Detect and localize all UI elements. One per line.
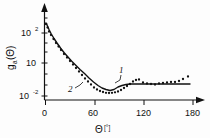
data-point (166, 81, 168, 83)
data-point (50, 34, 52, 36)
data-point (154, 83, 156, 85)
data-point (174, 81, 176, 83)
y-axis-title-group: g a (Θ) (5, 46, 18, 70)
x-axis-title-group: Θ [°] (95, 124, 110, 135)
data-point (142, 81, 144, 83)
data-point (132, 80, 134, 82)
data-point (178, 80, 180, 82)
data-point (146, 82, 148, 84)
data-point (129, 83, 131, 85)
data-point (102, 91, 104, 93)
data-point (48, 30, 50, 32)
y-tick-label-1e1: 10 (26, 58, 36, 68)
data-point (162, 82, 164, 84)
data-point (75, 67, 77, 69)
data-point (81, 74, 83, 76)
data-point (114, 91, 116, 93)
data-point (60, 49, 62, 51)
y-axis-title-argument: (Θ) (5, 46, 16, 60)
data-point (120, 89, 122, 91)
x-tick-label-180: 180 (185, 108, 200, 118)
y-tick-labels-group: 10 2 10 10 -2 (19, 26, 39, 101)
data-point (182, 78, 184, 80)
data-point (93, 86, 95, 88)
data-point (138, 78, 140, 80)
data-point (126, 85, 128, 87)
y-tick-label-1e2-exponent: 2 (35, 26, 39, 32)
annotations-group: 1 2 (68, 65, 124, 94)
figure-container: 10 2 10 10 -2 0 60 120 180 Θ [°] g a ( (0, 0, 210, 138)
curve-2-label: 2 (68, 84, 73, 94)
data-point (117, 90, 119, 92)
data-point (66, 56, 68, 58)
data-point (72, 63, 74, 65)
curve-2-leader-line (75, 82, 83, 88)
data-point (150, 83, 152, 85)
data-point (52, 38, 54, 40)
y-tick-label-1e2-mantissa: 10 (21, 28, 31, 38)
y-tick-label-1em2-exponent: -2 (33, 89, 39, 95)
data-point (45, 23, 47, 25)
x-axis-title-symbol: Θ (95, 124, 103, 135)
x-ticks-group (46, 100, 194, 105)
x-tick-labels-group: 0 60 120 180 (42, 108, 200, 118)
data-point (78, 70, 80, 72)
data-point (123, 87, 125, 89)
y-axis-title-base: g (5, 64, 16, 70)
data-point (69, 60, 71, 62)
series-2-dotted-points (45, 23, 189, 94)
x-axis-title-unit: [°] (104, 124, 110, 132)
x-tick-label-0: 0 (42, 108, 47, 118)
data-point (96, 88, 98, 90)
curve-1-leader-line (115, 75, 121, 83)
x-tick-label-60: 60 (88, 108, 98, 118)
data-point (63, 53, 65, 55)
data-point (170, 81, 172, 83)
data-point (57, 45, 59, 47)
x-axis-arrow-icon (196, 97, 205, 103)
data-point (87, 80, 89, 82)
data-point (55, 42, 57, 44)
data-point (111, 92, 113, 94)
data-point (105, 92, 107, 94)
y-axis-arrow-icon (41, 3, 48, 12)
data-point (46, 26, 48, 28)
data-point (108, 92, 110, 94)
x-tick-label-120: 120 (136, 108, 151, 118)
data-point (84, 77, 86, 79)
data-point (99, 90, 101, 92)
data-point (90, 83, 92, 85)
curve-1-label: 1 (119, 65, 124, 75)
y-tick-label-1em2-mantissa: 10 (19, 91, 29, 101)
data-point (158, 82, 160, 84)
angular-distribution-chart: 10 2 10 10 -2 0 60 120 180 Θ [°] g a ( (0, 0, 210, 138)
data-point (187, 75, 189, 77)
data-point (135, 79, 137, 81)
